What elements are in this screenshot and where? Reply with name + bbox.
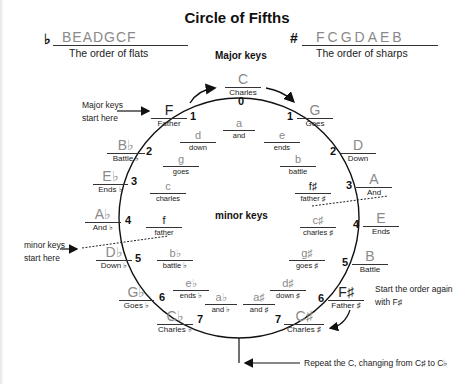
key-count: 0 <box>238 95 244 107</box>
major-key-aflat: A♭ And ♭ <box>85 206 121 233</box>
key-count: 2 <box>330 145 336 157</box>
arrow-fsharp-to-csharp <box>331 310 350 328</box>
diagram-graphics <box>0 0 474 384</box>
minor-key-f: f father <box>146 214 182 238</box>
key-count: 6 <box>318 292 324 304</box>
minor-start-annotation: minor keys start here <box>24 239 65 265</box>
minor-key-bflat: b♭ battle ♭ <box>157 247 193 271</box>
key-count: 5 <box>342 256 348 268</box>
major-key-b: B Battle <box>352 248 388 275</box>
key-count: 1 <box>190 110 196 122</box>
restart-annotation: Start the order again with F♯ <box>375 283 453 309</box>
minor-key-a: a and <box>223 117 255 141</box>
key-count: 3 <box>131 175 137 187</box>
minor-key-d: d down <box>180 129 216 153</box>
major-key-csharp: C♯ Charles ♯ <box>284 308 324 335</box>
minor-key-g: g goes <box>163 153 199 177</box>
major-start-annotation: Major keys start here <box>82 99 123 125</box>
key-count: 4 <box>353 218 359 230</box>
minor-key-gsharp: g♯ goes ♯ <box>289 247 325 271</box>
key-count: 5 <box>135 252 141 264</box>
minor-key-c: c charles <box>150 180 186 204</box>
minor-key-fsharp: f♯ father ♯ <box>295 180 331 204</box>
major-key-eflat: E♭ Ends ♭ <box>93 168 128 195</box>
key-count: 6 <box>159 291 165 303</box>
key-count: 4 <box>125 214 131 226</box>
major-key-dflat: D♭ Down ♭ <box>96 244 132 271</box>
minor-key-aflat: a♭ and ♭ <box>205 291 237 315</box>
major-key-g: G Goes <box>297 102 333 129</box>
key-note: C <box>225 71 261 88</box>
minor-key-e: e ends <box>264 129 300 153</box>
minor-key-asharp: a♯ and ♯ <box>243 291 275 315</box>
minor-key-eflat: e♭ ends ♭ <box>173 277 209 301</box>
key-count: 7 <box>197 313 203 325</box>
key-count: 2 <box>146 145 152 157</box>
major-key-cflat: C♭ Charles ♭ <box>157 308 193 335</box>
major-key-gflat: G♭ Goes ♭ <box>119 284 154 311</box>
minor-key-csharp: c♯ charles ♯ <box>300 214 336 238</box>
major-key-a: A And <box>356 171 392 198</box>
major-key-fsharp: F♯ Father ♯ <box>328 284 364 311</box>
minor-key-b: b battle <box>280 153 316 177</box>
key-count: 3 <box>346 179 352 191</box>
major-key-e: E Ends <box>363 210 399 237</box>
arrow-c-to-g <box>266 88 293 101</box>
minor-key-dsharp: d♯ down ♯ <box>270 277 306 301</box>
major-key-f: F Father <box>151 102 187 129</box>
major-key-bflat: B♭ Battle ♭ <box>107 137 145 164</box>
major-key-c: C Charles <box>225 71 261 98</box>
key-count: 7 <box>275 313 281 325</box>
repeat-annotation: Repeat the C, changing from C♯ to C♭ <box>304 357 447 370</box>
key-count: 1 <box>287 110 293 122</box>
major-key-d: D Down <box>340 137 376 164</box>
